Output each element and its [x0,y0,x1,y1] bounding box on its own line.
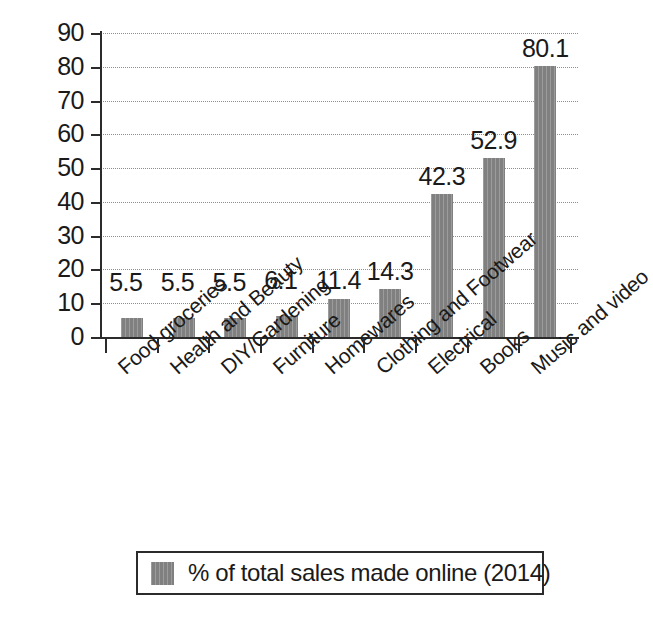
x-axis-tick [208,337,210,353]
x-axis-tick [312,337,314,353]
x-axis-tick [157,337,159,353]
x-axis-tick [260,337,262,353]
bar-value-label: 80.1 [500,36,590,61]
x-axis-tick [415,337,417,353]
bar-value-label: 42.3 [397,164,487,189]
legend-label: % of total sales made online (2014) [188,561,550,585]
x-axis-tick [105,337,107,353]
chart-legend: % of total sales made online (2014) [136,551,544,595]
x-axis-tick [467,337,469,353]
x-axis-tick [570,337,572,353]
bar-value-label: 14.3 [345,259,435,284]
bar-value-label: 52.9 [449,128,539,153]
legend-swatch-icon [151,562,174,585]
x-axis-tick [518,337,520,353]
x-axis-category-label: Music and video [527,265,652,377]
x-axis-tick [363,337,365,353]
